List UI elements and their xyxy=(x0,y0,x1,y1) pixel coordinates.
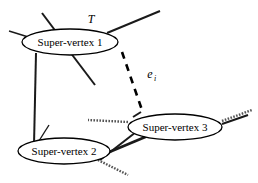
edge-sv1-down-right-stub xyxy=(70,52,95,85)
edge-label-subscript: i xyxy=(154,74,156,83)
tree-label-T: T xyxy=(88,12,96,26)
node-label-2: Super-vertex 2 xyxy=(32,145,97,157)
node-label-1: Super-vertex 1 xyxy=(38,36,103,48)
node-super-vertex-2[interactable]: Super-vertex 2 xyxy=(18,138,110,164)
edge-e-i-dashed xyxy=(122,52,143,113)
selected-edge-group xyxy=(122,52,143,113)
graph-figure: Super-vertex 1 Super-vertex 2 Super-vert… xyxy=(0,0,258,183)
edge-sv3-left-dotted xyxy=(88,120,128,122)
edge-label-base: e xyxy=(147,67,153,81)
edge-sv1-up-right-stub xyxy=(107,11,160,33)
graph-canvas: Super-vertex 1 Super-vertex 2 Super-vert… xyxy=(0,0,258,183)
edge-sv3-up-stub xyxy=(133,112,141,117)
edge-sv2-down-right-dotted xyxy=(98,160,128,175)
edge-label-e-i: e i xyxy=(147,67,156,83)
node-super-vertex-1[interactable]: Super-vertex 1 xyxy=(22,29,118,55)
edge-sv1-to-sv2-trunk xyxy=(34,53,36,145)
node-label-3: Super-vertex 3 xyxy=(143,121,208,133)
node-super-vertex-3[interactable]: Super-vertex 3 xyxy=(128,114,222,140)
